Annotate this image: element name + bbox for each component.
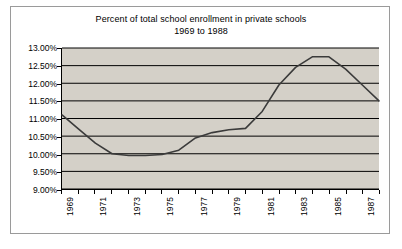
y-axis-tick: [57, 84, 61, 85]
y-axis-tick: [57, 101, 61, 102]
x-axis-tick: [279, 190, 280, 194]
x-axis-tick: [94, 190, 95, 194]
plot-area: [61, 48, 379, 190]
y-axis-tick: [57, 172, 61, 173]
x-axis-tick: [295, 190, 296, 194]
x-axis-label: 1983: [299, 197, 309, 216]
plot-area-wrapper: 13.00%12.50%12.00%11.50%11.00%10.50%10.0…: [61, 48, 379, 190]
chart-title-block: Percent of total school enrollment in pr…: [11, 13, 391, 37]
y-axis-tick: [57, 66, 61, 67]
x-axis-tick: [145, 190, 146, 194]
y-axis-label: 9.00%: [0, 186, 57, 194]
x-axis-label: 1971: [98, 197, 108, 216]
x-axis-tick: [61, 190, 62, 194]
x-axis-label: 1985: [333, 197, 343, 216]
y-axis-label: 10.50%: [0, 133, 57, 141]
x-axis-tick: [195, 190, 196, 194]
y-axis-tick: [57, 155, 61, 156]
chart-frame: Percent of total school enrollment in pr…: [10, 6, 390, 234]
y-axis-tick: [57, 48, 61, 49]
y-axis-label: 12.00%: [0, 80, 57, 88]
x-axis-tick: [379, 190, 380, 194]
x-axis-label: 1981: [266, 197, 276, 216]
x-axis-tick: [228, 190, 229, 194]
chart-subtitle: 1969 to 1988: [11, 25, 391, 37]
y-axis-label: 10.00%: [0, 151, 57, 159]
y-axis-label: 11.00%: [0, 115, 57, 123]
series-line-layer: [62, 48, 379, 189]
x-axis-tick: [245, 190, 246, 194]
x-axis-tick: [78, 190, 79, 194]
y-axis-label: 9.50%: [0, 168, 57, 176]
x-axis-label: 1973: [132, 197, 142, 216]
chart-title: Percent of total school enrollment in pr…: [11, 13, 391, 25]
x-axis-tick: [161, 190, 162, 194]
x-axis-label: 1979: [232, 197, 242, 216]
x-axis-tick: [128, 190, 129, 194]
x-axis-tick: [111, 190, 112, 194]
x-axis-tick: [178, 190, 179, 194]
x-axis-label: 1969: [65, 197, 75, 216]
y-axis-label: 13.00%: [0, 44, 57, 52]
y-axis-tick: [57, 137, 61, 138]
y-axis-label: 12.50%: [0, 62, 57, 70]
y-axis-tick: [57, 119, 61, 120]
y-axis-label: 11.50%: [0, 97, 57, 105]
gridlines: [62, 48, 379, 189]
x-axis-tick: [212, 190, 213, 194]
x-axis-tick: [329, 190, 330, 194]
x-axis-label: 1975: [165, 197, 175, 216]
data-series-line: [62, 57, 379, 156]
x-axis-label: 1987: [366, 197, 376, 216]
x-axis-tick: [312, 190, 313, 194]
x-axis-tick: [346, 190, 347, 194]
x-axis-label: 1977: [199, 197, 209, 216]
x-axis-tick: [262, 190, 263, 194]
x-axis-tick: [362, 190, 363, 194]
